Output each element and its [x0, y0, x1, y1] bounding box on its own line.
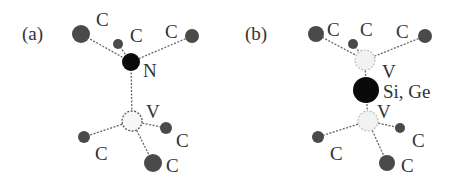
nitrogen-label: N: [143, 60, 157, 81]
impurity-atom: [353, 77, 379, 103]
carbon-atom: [144, 154, 162, 172]
carbon-atom: [348, 39, 358, 49]
carbon-label: C: [176, 130, 189, 151]
vacancy-label: V: [377, 101, 391, 122]
carbon-atom: [308, 26, 324, 42]
vacancy-label: V: [382, 61, 396, 82]
vacancy-top: [355, 50, 375, 70]
panel-a: (a) C C C N V C C C: [22, 9, 199, 176]
vacancy-bottom: [358, 111, 378, 131]
carbon-label: C: [95, 143, 108, 164]
vacancy-label: V: [146, 101, 160, 122]
carbon-atom: [113, 39, 123, 49]
carbon-label: C: [330, 143, 343, 164]
panel-label: (a): [22, 23, 43, 45]
carbon-label: C: [327, 19, 340, 40]
carbon-atom: [185, 29, 199, 43]
vacancy: [122, 111, 142, 131]
carbon-atom: [418, 29, 432, 43]
panel-label: (b): [245, 23, 267, 45]
nitrogen-atom: [122, 53, 140, 71]
panel-b: (b) C C C V Si, Ge V C C C: [245, 19, 432, 176]
carbon-atom: [160, 122, 172, 134]
carbon-atom: [78, 131, 90, 143]
carbon-label: C: [360, 19, 373, 40]
carbon-label: C: [165, 21, 178, 42]
carbon-atom: [72, 25, 90, 43]
carbon-label: C: [130, 25, 143, 46]
carbon-label: C: [166, 155, 179, 176]
carbon-label: C: [401, 155, 414, 176]
carbon-label: C: [96, 9, 109, 30]
carbon-atom: [379, 155, 395, 171]
carbon-atom: [395, 123, 405, 133]
carbon-label: C: [412, 130, 425, 151]
defect-diagram: (a) C C C N V C C C (b) C C C: [0, 0, 460, 182]
carbon-label: C: [396, 21, 409, 42]
carbon-atom: [312, 131, 324, 143]
impurity-label: Si, Ge: [383, 81, 431, 102]
